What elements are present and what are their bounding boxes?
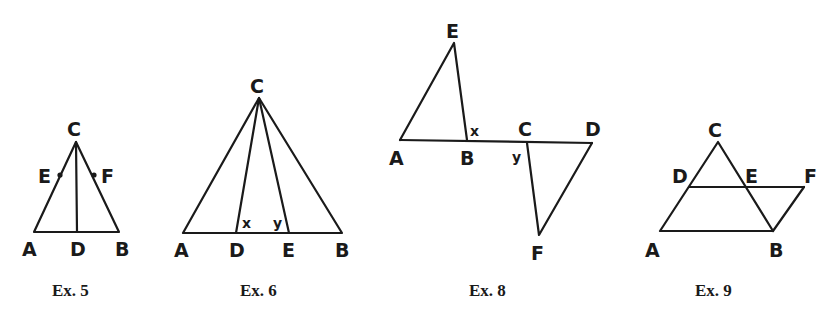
angle-y-label: y: [273, 215, 282, 231]
label-f: F: [804, 165, 817, 187]
label-b: B: [115, 238, 129, 260]
label-b: B: [335, 239, 349, 261]
label-a: A: [174, 239, 189, 261]
figure-ex8: E x C D A B y F Ex. 8: [389, 20, 601, 300]
label-c: C: [518, 118, 532, 140]
label-f: F: [531, 242, 544, 264]
label-f: F: [101, 165, 114, 187]
caption-ex9: Ex. 9: [695, 281, 732, 300]
segment-bf: [773, 187, 804, 231]
label-e: E: [745, 165, 758, 187]
triangle-abe: [400, 43, 467, 140]
figure-ex9: C D E F A B Ex. 9: [645, 119, 817, 300]
exercise-figures: C E F A D B Ex. 5 C x y A D E B Ex. 6 E …: [0, 0, 838, 317]
figure-ex6: C x y A D E B Ex. 6: [174, 75, 349, 300]
label-b: B: [460, 147, 474, 169]
segment-ce: [259, 98, 289, 233]
point-e-dot: [57, 172, 62, 177]
label-d: D: [585, 118, 601, 140]
angle-x-label: x: [242, 215, 251, 231]
label-e: E: [282, 239, 295, 261]
angle-x-label: x: [470, 123, 479, 139]
angle-y-label: y: [512, 149, 521, 165]
triangle-cdf: [527, 143, 592, 235]
label-d: D: [70, 238, 86, 260]
caption-ex8: Ex. 8: [469, 281, 506, 300]
label-a: A: [645, 239, 660, 261]
label-c: C: [67, 118, 81, 140]
label-a: A: [389, 147, 404, 169]
caption-ex6: Ex. 6: [240, 281, 277, 300]
label-a: A: [22, 238, 37, 260]
caption-ex5: Ex. 5: [52, 281, 89, 300]
label-e: E: [38, 165, 51, 187]
label-c: C: [708, 119, 722, 141]
label-d: D: [672, 165, 688, 187]
label-c: C: [250, 75, 264, 97]
altitude-cd: [76, 142, 77, 232]
figure-ex5: C E F A D B Ex. 5: [22, 118, 129, 300]
label-b: B: [769, 239, 783, 261]
point-f-dot: [91, 172, 96, 177]
line-abcd: [400, 140, 592, 143]
label-d: D: [229, 239, 245, 261]
label-e: E: [446, 20, 459, 42]
